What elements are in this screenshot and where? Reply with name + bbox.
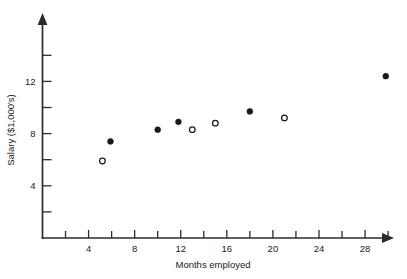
scatter-plot-figure: 481216202428 4812 Months employed Salary… <box>0 0 407 279</box>
data-point-open <box>282 115 288 121</box>
x-tick-label-8: 8 <box>132 243 137 254</box>
x-axis-title: Months employed <box>176 259 251 270</box>
data-point-open <box>213 120 219 126</box>
x-tick-label-28: 28 <box>360 243 371 254</box>
x-axis-ticks <box>66 230 389 238</box>
x-tick-label-24: 24 <box>314 243 325 254</box>
y-axis-arrow-icon <box>38 13 48 25</box>
data-point-open <box>189 127 195 133</box>
y-axis-ticks <box>43 55 52 212</box>
x-tick-label-16: 16 <box>222 243 233 254</box>
y-axis-tick-labels: 4812 <box>25 76 36 191</box>
data-point-filled <box>383 73 389 79</box>
x-tick-label-12: 12 <box>175 243 186 254</box>
data-point-filled <box>108 139 114 145</box>
y-axis-title: Salary ($1,000's) <box>5 94 16 166</box>
data-point-filled <box>247 109 253 115</box>
chart-canvas: 481216202428 4812 Months employed Salary… <box>0 0 407 279</box>
data-point-filled <box>176 119 182 125</box>
x-axis-tick-labels: 481216202428 <box>86 243 370 254</box>
axes <box>38 13 394 243</box>
data-point-filled <box>155 127 161 133</box>
x-tick-label-4: 4 <box>86 243 91 254</box>
x-tick-label-20: 20 <box>268 243 279 254</box>
y-tick-label-8: 8 <box>30 128 35 139</box>
data-points <box>100 73 389 164</box>
y-tick-label-12: 12 <box>25 76 36 87</box>
y-tick-label-4: 4 <box>30 180 35 191</box>
data-point-open <box>100 158 106 164</box>
